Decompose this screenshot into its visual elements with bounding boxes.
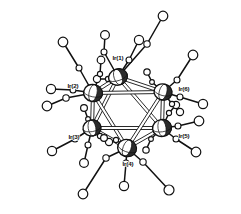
carbon-atom bbox=[126, 57, 132, 63]
carbon-atom bbox=[85, 142, 91, 148]
oxygen-atom bbox=[134, 35, 143, 44]
carbon-atom bbox=[140, 159, 146, 165]
oxygen-atom bbox=[80, 159, 89, 168]
oxygen-atom bbox=[144, 69, 150, 75]
oxygen-atom bbox=[78, 189, 88, 199]
oxygen-atom bbox=[47, 146, 56, 155]
metal-metal-bond bbox=[92, 127, 162, 130]
oxygen-atom bbox=[101, 31, 110, 40]
ortep-figure: Ir(1)Ir(2)Ir(3)Ir(4)Ir(5)Ir(6) bbox=[0, 0, 241, 214]
carbon-atom bbox=[175, 123, 181, 129]
bond-core bbox=[93, 92, 163, 93]
oxygen-atom bbox=[119, 181, 128, 190]
carbon-atom bbox=[101, 49, 107, 55]
atom-label-ir2: Ir(2) bbox=[68, 82, 79, 89]
oxygen-atom bbox=[194, 116, 204, 126]
carbon-atom bbox=[76, 65, 82, 71]
metal-metal-bond bbox=[93, 91, 163, 95]
oxygen-atom bbox=[188, 50, 198, 60]
oxygen-atom bbox=[143, 147, 149, 153]
atom-label-ir5: Ir(5) bbox=[179, 132, 190, 139]
oxygen-atom bbox=[81, 105, 88, 112]
carbon-atom bbox=[103, 155, 109, 161]
carbon-atom bbox=[97, 71, 102, 76]
oxygen-atom bbox=[58, 37, 68, 47]
carbon-atom bbox=[113, 137, 118, 142]
oxygen-atom bbox=[164, 185, 174, 195]
oxygen-atom bbox=[42, 101, 52, 111]
carbon-atom bbox=[144, 41, 150, 47]
carbon-atom bbox=[177, 94, 183, 100]
molecular-structure-canvas: Ir(1)Ir(2)Ir(3)Ir(4)Ir(5)Ir(6) bbox=[0, 0, 241, 214]
atom-label-ir6: Ir(6) bbox=[179, 85, 190, 92]
carbon-atom bbox=[169, 101, 174, 106]
atom-label-ir3: Ir(3) bbox=[69, 133, 80, 140]
carbon-atom bbox=[149, 137, 154, 142]
oxygen-atom bbox=[191, 147, 201, 157]
carbon-atom bbox=[174, 77, 180, 83]
carbon-atom bbox=[150, 80, 155, 85]
oxygen-atom bbox=[176, 108, 183, 115]
atom-label-ir4: Ir(4) bbox=[123, 160, 134, 167]
carbon-atom bbox=[63, 95, 69, 101]
oxygen-atom bbox=[101, 135, 108, 142]
oxygen-atom bbox=[158, 11, 168, 21]
atom-label-ir1: Ir(1) bbox=[113, 54, 124, 61]
carbon-atom bbox=[166, 110, 171, 115]
oxygen-atom bbox=[46, 84, 55, 93]
oxygen-atom bbox=[198, 99, 207, 108]
oxygen-atom bbox=[97, 56, 105, 64]
